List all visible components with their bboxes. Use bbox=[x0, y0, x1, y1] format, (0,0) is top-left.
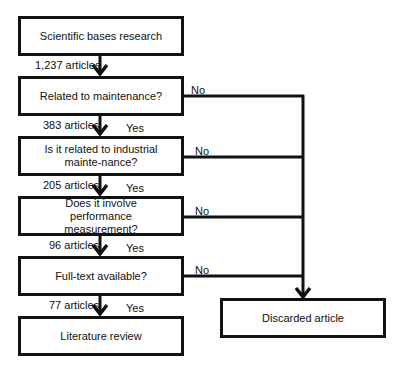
count-label: 383 articles bbox=[43, 119, 99, 131]
step-industrial-maintenance: Is it related to industrial mainte-nance… bbox=[18, 136, 184, 176]
count-label: 205 articles bbox=[43, 179, 99, 191]
step-performance-measurement: Does it involve performance measurement? bbox=[18, 196, 184, 236]
yes-label: Yes bbox=[126, 122, 144, 134]
step-text: Literature review bbox=[60, 330, 141, 343]
step-text: Full-text available? bbox=[55, 270, 147, 283]
no-label: No bbox=[195, 264, 209, 276]
yes-label: Yes bbox=[126, 242, 144, 254]
step-text: Is it related to industrial mainte-nance… bbox=[29, 143, 173, 169]
step-scientific-bases-research: Scientific bases research bbox=[18, 16, 184, 56]
no-label: No bbox=[195, 145, 209, 157]
step-text: Related to maintenance? bbox=[40, 90, 162, 103]
step-text: Does it involve performance measurement? bbox=[29, 197, 173, 236]
discarded-article-box: Discarded article bbox=[220, 298, 386, 338]
no-label: No bbox=[195, 205, 209, 217]
count-label: 96 articles bbox=[49, 239, 99, 251]
count-label: 77 articles bbox=[49, 299, 99, 311]
step-text: Scientific bases research bbox=[40, 30, 162, 43]
step-related-to-maintenance: Related to maintenance? bbox=[18, 76, 184, 116]
yes-label: Yes bbox=[126, 302, 144, 314]
step-literature-review: Literature review bbox=[18, 316, 184, 356]
count-label: 1,237 articles bbox=[35, 59, 100, 71]
discarded-text: Discarded article bbox=[262, 312, 344, 325]
no-label: No bbox=[191, 84, 205, 96]
yes-label: Yes bbox=[126, 182, 144, 194]
step-full-text-available: Full-text available? bbox=[18, 256, 184, 296]
